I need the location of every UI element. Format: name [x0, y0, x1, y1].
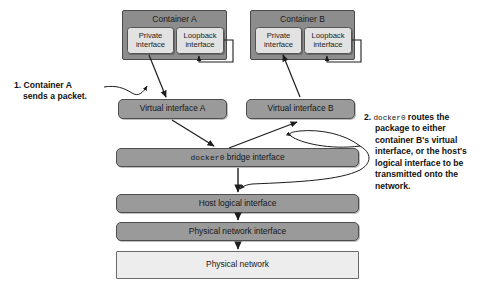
callout-1-leader: [104, 86, 147, 95]
arrow-virtual-a-to-bridge: [172, 120, 214, 146]
callout-2-leader-lower: [240, 146, 369, 189]
callout-2-text: routes the package to either container B…: [375, 112, 467, 191]
callout-1-number: 1.: [14, 80, 21, 90]
callout-2: 2. docker0 routes the package to either …: [364, 112, 480, 192]
callout-2-number: 2.: [364, 112, 371, 122]
callout-2-leader-upper: [290, 131, 360, 146]
arrow-private-a-to-virtual-a: [149, 55, 166, 97]
callout-1-line1: Container A: [24, 80, 72, 90]
arrow-virtual-b-to-private-b: [283, 55, 300, 97]
callout-2-mono-term: docker0: [374, 114, 406, 122]
arrow-bridge-to-virtual-b: [229, 122, 297, 148]
callout-1: 1. Container A sends a packet.: [14, 80, 110, 103]
loopback-a-self-loop: [199, 40, 233, 62]
callout-1-line2: sends a packet.: [23, 91, 87, 101]
loopback-b-self-loop: [327, 40, 361, 62]
network-diagram: Container A Private interface Loopback i…: [0, 0, 482, 291]
callout-2-leader-return: [291, 136, 360, 147]
